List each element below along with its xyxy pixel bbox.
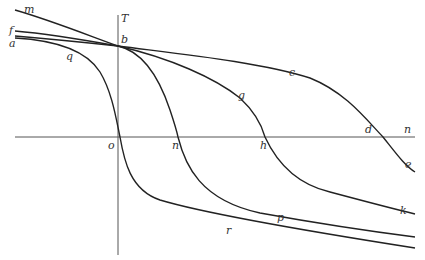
label-f: f bbox=[8, 24, 15, 37]
label-b: b bbox=[121, 33, 128, 46]
label-q: q bbox=[66, 50, 73, 63]
label-n-cross: n bbox=[172, 139, 179, 152]
label-n-axis: n bbox=[404, 123, 411, 136]
curve-b-c-d-e bbox=[15, 36, 415, 172]
diagram-canvas: T n o b m f a q c d e g h k n p r bbox=[0, 0, 425, 260]
label-d: d bbox=[365, 123, 372, 136]
label-g: g bbox=[238, 89, 245, 102]
label-o: o bbox=[108, 139, 115, 152]
label-c: c bbox=[289, 66, 295, 79]
label-m: m bbox=[24, 3, 34, 16]
label-a: a bbox=[9, 37, 16, 50]
curve-a-q-o-r bbox=[15, 38, 415, 248]
label-e: e bbox=[405, 158, 412, 171]
diagram-figure: T n o b m f a q c d e g h k n p r bbox=[0, 0, 425, 260]
label-p: p bbox=[277, 211, 284, 224]
label-t: T bbox=[121, 12, 130, 25]
label-k: k bbox=[400, 204, 407, 217]
label-h: h bbox=[260, 139, 267, 152]
label-r: r bbox=[226, 224, 232, 237]
